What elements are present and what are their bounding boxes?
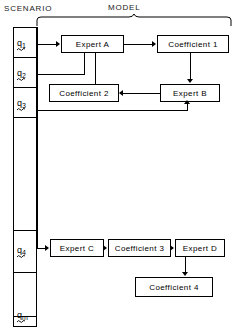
tilde-under-q1-icon: [17, 47, 25, 51]
arrowhead-expert-d-to-coefficient-4: [182, 272, 188, 276]
arrowhead-coefficient-1-to-expert-b: [187, 79, 193, 83]
node-expert-d[interactable]: Expert D: [175, 239, 225, 257]
tilde-under-qm-icon: [17, 319, 25, 323]
scenario-cell-blank-1: [14, 118, 36, 231]
edge-expert-d-to-coefficient-4: [185, 257, 186, 273]
edge-q1-to-expert-a: [37, 44, 57, 45]
arrowhead-coefficient-3-to-expert-d: [170, 245, 174, 251]
edge-expert-a-to-coefficient-2: [95, 53, 96, 84]
tilde-under-q2-icon: [17, 77, 25, 81]
tilde-under-q4-icon: [17, 254, 25, 258]
scenario-heading: SCENARIO: [4, 4, 52, 13]
node-coefficient-4[interactable]: Coefficient 4: [135, 277, 213, 297]
node-coefficient-2[interactable]: Coefficient 2: [49, 84, 119, 102]
model-heading: MODEL: [108, 3, 140, 12]
node-expert-a[interactable]: Expert A: [61, 35, 124, 53]
scenario-model-diagram: SCENARIO MODEL q1 q2 q3 q4 qm: [0, 0, 236, 332]
arrowhead-q3-to-expert-b: [184, 100, 190, 104]
edge-scenario-bus-vertical: [37, 27, 38, 248]
edge-coefficient-1-to-expert-b: [190, 53, 191, 80]
arrowhead-expert-a-to-coefficient-1: [152, 41, 156, 47]
edge-expert-b-to-coefficient-2: [123, 93, 160, 94]
model-brace-icon: [36, 14, 232, 26]
tilde-under-q3-icon: [17, 107, 25, 111]
edge-q2-horizontal: [37, 74, 85, 75]
arrowhead-q1-to-expert-a: [56, 41, 60, 47]
node-coefficient-1[interactable]: Coefficient 1: [157, 35, 229, 53]
node-expert-c[interactable]: Expert C: [50, 239, 104, 257]
arrowhead-expert-c-to-coefficient-3: [103, 245, 107, 251]
edge-q2-vertical: [84, 53, 85, 75]
node-expert-b[interactable]: Expert B: [160, 84, 220, 102]
arrowhead-expert-b-to-coefficient-2: [119, 90, 123, 96]
node-coefficient-3[interactable]: Coefficient 3: [108, 239, 171, 257]
edge-expert-a-to-coefficient-1: [124, 44, 153, 45]
edge-q3-horizontal: [37, 110, 188, 111]
arrowhead-q4-to-expert-c: [45, 245, 49, 251]
